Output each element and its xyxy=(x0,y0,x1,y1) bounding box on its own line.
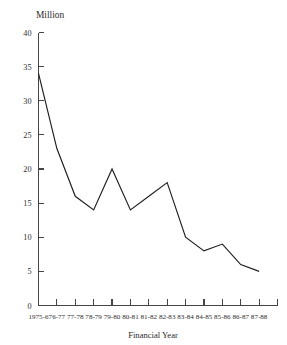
x-tick-label: 81-82 xyxy=(141,313,158,321)
line-chart: 0510152025303540 1975-676-7777-7878-7979… xyxy=(0,0,287,345)
y-tick-label: 5 xyxy=(27,267,31,276)
y-tick-label: 15 xyxy=(23,199,31,208)
x-tick-label: 79-80 xyxy=(104,313,121,321)
x-axis-title: Financial Year xyxy=(128,330,178,340)
y-tick-labels: 0510152025303540 xyxy=(23,29,31,311)
y-tick-label: 25 xyxy=(23,131,31,140)
x-tick-label: 78-79 xyxy=(85,313,102,321)
x-tick-label: 77-78 xyxy=(67,313,84,321)
x-tick-label: 84-85 xyxy=(196,313,213,321)
data-series-line xyxy=(39,73,260,271)
chart-canvas: 0510152025303540 1975-676-7777-7878-7979… xyxy=(0,0,287,345)
y-tick-label: 40 xyxy=(23,29,31,38)
x-tick-label: 1975-6 xyxy=(28,313,49,321)
y-tick-label: 20 xyxy=(23,165,31,174)
y-tick-label: 10 xyxy=(23,233,31,242)
x-tick-labels: 1975-676-7777-7878-7979-8080-8181-8282-8… xyxy=(28,313,267,321)
x-tick-label: 80-81 xyxy=(122,313,139,321)
x-axis xyxy=(39,299,278,306)
x-tick-label: 85-86 xyxy=(214,313,231,321)
unit-title: Million xyxy=(36,10,64,20)
x-tick-label: 83-84 xyxy=(177,313,194,321)
x-tick-label: 76-77 xyxy=(49,313,66,321)
y-tick-label: 30 xyxy=(23,97,31,106)
x-tick-label: 82-83 xyxy=(159,313,176,321)
y-tick-label: 35 xyxy=(23,63,31,72)
x-tick-label: 86-87 xyxy=(232,313,249,321)
y-tick-label: 0 xyxy=(27,302,31,311)
y-axis xyxy=(39,33,44,306)
x-tick-label: 87-88 xyxy=(251,313,268,321)
